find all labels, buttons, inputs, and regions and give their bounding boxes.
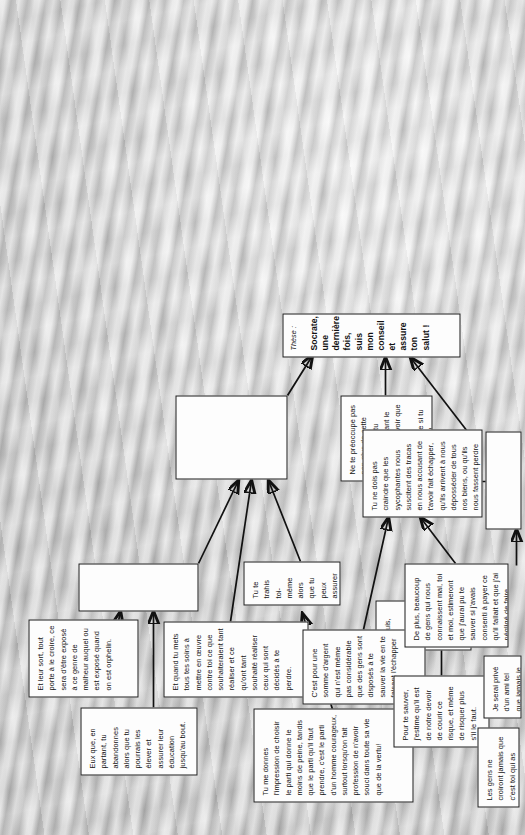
node-premise-tu-te-trahis[interactable]: Tu te trahis toi-même alors que tu peux … xyxy=(243,561,340,605)
node-intermediate-top[interactable] xyxy=(78,563,198,611)
node-premise-de-plus-beaucoup[interactable]: De plus, beaucoup de gens qui nous conna… xyxy=(404,563,508,647)
node-intermediate-lower[interactable] xyxy=(485,431,521,529)
node-thesis[interactable]: Thèse : Socrate, une dernière fois, suis… xyxy=(282,313,460,357)
node-premise-leur-sort-orphelin[interactable]: Et leur sort, tout porte à le croire, ce… xyxy=(28,619,138,697)
connector-n5-b2 xyxy=(268,480,300,561)
node-premise-pour-te-sauver[interactable]: Pour te sauver, j'estime qu'il est de no… xyxy=(393,675,489,747)
screenshot-page: Tu me donnes l'impression de choisir le … xyxy=(0,0,525,835)
connector-b1-b2 xyxy=(198,480,238,563)
node-premise-impression-parti[interactable]: Tu me donnes l'impression de choisir le … xyxy=(253,708,413,802)
connector-n9-n13 xyxy=(420,517,455,563)
node-premise-tu-mets-tous-tes-soins[interactable]: Et quand tu mets tous tes soins à mettre… xyxy=(163,621,308,697)
connector-b2-thesis xyxy=(287,355,312,395)
node-premise-les-gens-ne-croiront[interactable]: Les gens ne croiront jamais que c'est to… xyxy=(477,727,519,807)
node-premise-tu-ne-dois-pas-craindre[interactable]: Tu ne dois pas craindre que les sycophan… xyxy=(362,429,482,517)
node-premise-eux-en-partant[interactable]: Eux que, en partant, tu abandonnes alors… xyxy=(80,707,197,775)
diagram-canvas: Tu me donnes l'impression de choisir le … xyxy=(0,0,525,835)
node-premise-je-serai-prive[interactable]: Je serai privé d'un ami tel que jamais j… xyxy=(483,655,521,718)
thesis-text: Socrate, une dernière fois, suis mon con… xyxy=(308,319,431,350)
thesis-label: Thèse : xyxy=(288,319,299,350)
node-intermediate-middle[interactable] xyxy=(175,395,287,479)
